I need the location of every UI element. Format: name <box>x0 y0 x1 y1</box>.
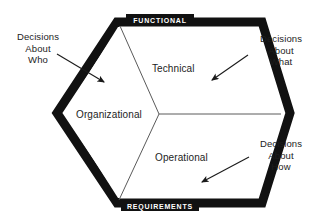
edge-label-requirements: REQUIREMENTS <box>124 203 196 211</box>
annotation-what-line2: About <box>247 45 315 57</box>
annotation-decisions-about-what: Decisions About What <box>247 33 315 68</box>
annotation-decisions-about-how: Decisions About How <box>247 138 315 173</box>
segment-label-technical: Technical <box>152 63 195 75</box>
annotation-how-line3: How <box>247 161 315 173</box>
annotation-what-line3: What <box>247 56 315 68</box>
annotation-how-line1: Decisions <box>247 138 315 150</box>
annotation-who-line3: Who <box>4 54 72 66</box>
annotation-who-line1: Decisions <box>4 31 72 43</box>
annotation-who-line2: About <box>4 43 72 55</box>
edge-label-functional: FUNCTIONAL <box>129 17 191 25</box>
diagram-canvas: FUNCTIONAL REQUIREMENTS Technical Organi… <box>0 0 319 224</box>
annotation-what-line1: Decisions <box>247 33 315 45</box>
segment-label-organizational: Organizational <box>76 109 142 121</box>
annotation-how-line2: About <box>247 150 315 162</box>
segment-label-operational: Operational <box>155 152 208 164</box>
annotation-decisions-about-who: Decisions About Who <box>4 31 72 66</box>
